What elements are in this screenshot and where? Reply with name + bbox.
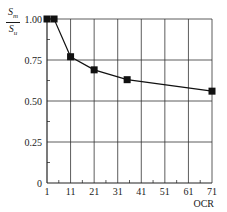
- data-point-marker: [91, 66, 98, 73]
- y-tick-label: 0: [37, 178, 42, 189]
- data-point-marker: [44, 16, 51, 23]
- data-point-marker: [51, 16, 58, 23]
- x-tick-label: 11: [66, 186, 76, 197]
- data-point-marker: [67, 53, 74, 60]
- y-tick-label: 1.00: [25, 14, 43, 25]
- x-tick-label: 71: [207, 186, 217, 197]
- x-tick-label: 1: [45, 186, 50, 197]
- x-tick-label: 51: [160, 186, 170, 197]
- y-tick-label: 0.75: [25, 55, 43, 66]
- x-axis-label: OCR: [193, 198, 214, 209]
- chart: 11121314151617100.250.500.751.00OCR: [0, 0, 227, 212]
- data-point-marker: [209, 88, 216, 95]
- y-tick-label: 0.25: [25, 137, 43, 148]
- x-tick-label: 31: [113, 186, 123, 197]
- x-tick-label: 61: [183, 186, 193, 197]
- x-tick-label: 41: [136, 186, 146, 197]
- y-tick-label: 0.50: [25, 96, 43, 107]
- y-axis-label: Sm Su: [6, 6, 20, 39]
- data-point-marker: [124, 76, 131, 83]
- x-tick-label: 21: [89, 186, 99, 197]
